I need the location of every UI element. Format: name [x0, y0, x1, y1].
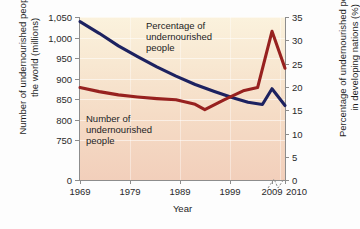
- y-tick-right: [285, 87, 289, 88]
- y-tick-label-right: 10: [292, 129, 303, 140]
- x-tick-label: 1989: [162, 186, 198, 197]
- y-tick-label-left: 750: [56, 135, 72, 146]
- y-tick-label-right: 30: [292, 35, 303, 46]
- y-tick-left: [75, 79, 79, 80]
- y-axis-right-title: Percentage of undernourished people in d…: [337, 0, 360, 138]
- y-tick-label-right: 5: [292, 152, 297, 163]
- annotation-percentage-label: Percentage of undernourished people: [146, 20, 212, 54]
- x-tick-label: 1979: [112, 186, 148, 197]
- y-tick-left: [75, 58, 79, 59]
- x-tick-label: 1969: [62, 186, 98, 197]
- y-tick-label-right: 25: [292, 59, 303, 70]
- y-tick-label-left: 1,050: [48, 12, 72, 23]
- y-tick-left: [75, 99, 79, 100]
- annotation-number-label: Number of undernourished people: [86, 113, 152, 147]
- x-tick: [230, 180, 231, 184]
- y-tick-right: [285, 64, 289, 65]
- y-tick-label-left: 850: [56, 94, 72, 105]
- y-tick-right: [285, 110, 289, 111]
- y-tick-right: [285, 40, 289, 41]
- y-tick-label-left: 900: [56, 74, 72, 85]
- y-axis-left-title: Number of undernourished people in the w…: [17, 0, 40, 138]
- y-tick-label-right: 20: [292, 82, 303, 93]
- y-tick-label-left: 1,000: [48, 33, 72, 44]
- y-tick-right: [285, 17, 289, 18]
- y-tick-right: [285, 134, 289, 135]
- x-tick: [180, 180, 181, 184]
- x-tick-label: 1999: [212, 186, 248, 197]
- y-tick-left: [75, 140, 79, 141]
- y-tick-label-left: 800: [56, 115, 72, 126]
- y-tick-label-left: 0: [67, 175, 72, 186]
- y-tick-left: [75, 38, 79, 39]
- y-tick-left: [75, 17, 79, 18]
- y-tick-label-right: 15: [292, 105, 303, 116]
- chart-figure: 1,050 1,000 950 900 850 800 750 0 35 30 …: [0, 0, 360, 229]
- y-tick-label-right: 0: [292, 175, 297, 186]
- x-axis-line: [79, 180, 286, 181]
- y-tick-left: [75, 180, 79, 181]
- x-axis-title: Year: [80, 203, 285, 214]
- y-tick-left: [75, 120, 79, 121]
- y-tick-right: [285, 157, 289, 158]
- y-tick-label-right: 35: [292, 12, 303, 23]
- y-tick-label-left: 950: [56, 53, 72, 64]
- x-tick: [80, 180, 81, 184]
- x-tick: [130, 180, 131, 184]
